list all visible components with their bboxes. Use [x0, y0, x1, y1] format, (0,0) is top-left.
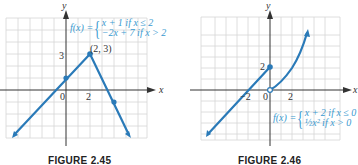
y-axis-label: y [266, 0, 270, 11]
formula-lhs: f(x) = [70, 23, 93, 33]
x-axis-arrow-icon [147, 87, 156, 93]
point-annotation: (2, 3) [90, 43, 112, 54]
y-axis-arrow-icon [63, 10, 69, 19]
piecewise-formula: f(x) ={ x + 1 if x ≤ 2 −2x + 7 if x > 2 [70, 18, 166, 38]
point-4-neg1 [111, 99, 116, 104]
brace-icon: { [94, 18, 100, 38]
formula-case-2: −2x + 7 if x > 2 [102, 28, 167, 38]
tick-x-0: 0 [263, 91, 268, 102]
figure-2-46: y x 2 −2 0 2 f(x) ={ x + 2 if x ≤ 0 ½x² … [180, 0, 358, 165]
tick-y-3: 3 [59, 50, 64, 61]
y-axis-arrow-icon [267, 10, 273, 19]
x-axis-arrow-icon [343, 87, 352, 93]
figure-caption: FIGURE 2.46 [238, 155, 301, 165]
brace-icon: { [297, 108, 303, 128]
tick-x-2: 2 [288, 91, 293, 102]
line-segment-x-plus-2 [208, 67, 270, 134]
formula-case-2: ½x² if x > 0 [305, 118, 357, 128]
x-axis-label: x [159, 84, 163, 95]
formula-cases: x + 1 if x ≤ 2 −2x + 7 if x > 2 [102, 18, 167, 38]
formula-cases: x + 2 if x ≤ 0 ½x² if x > 0 [305, 108, 357, 128]
parabola-half-x-squared [270, 33, 307, 90]
piecewise-formula: f(x) ={ x + 2 if x ≤ 0 ½x² if x > 0 [273, 108, 356, 128]
x-axis-label: x [353, 84, 357, 95]
tick-x-neg2: −2 [240, 91, 251, 102]
figure-caption: FIGURE 2.45 [48, 155, 111, 165]
figure-2-46-plot [180, 0, 358, 165]
figure-2-45: y x 3 0 2 (2, 3) f(x) ={ x + 1 if x ≤ 2 … [0, 0, 180, 165]
open-point-0-0 [268, 88, 273, 93]
point-0-1 [63, 75, 68, 80]
tick-x-2: 2 [86, 91, 91, 102]
tick-y-2: 2 [260, 61, 265, 72]
y-axis-label: y [62, 0, 66, 11]
tick-x-0: 0 [60, 91, 65, 102]
formula-lhs: f(x) = [273, 113, 296, 123]
arrowhead-up-icon [304, 29, 310, 37]
point-0-2 [267, 64, 273, 70]
